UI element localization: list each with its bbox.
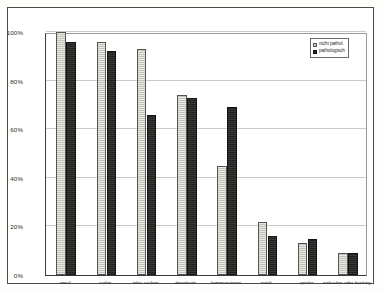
legend-item-nicht-pathol: nicht pathol.	[313, 41, 345, 48]
bar-group	[288, 34, 328, 275]
bar	[187, 98, 197, 275]
bar	[97, 42, 107, 275]
legend: nicht pathol. pathologisch	[310, 38, 349, 58]
plot-area	[45, 33, 367, 276]
bar	[56, 32, 66, 275]
bar	[227, 107, 237, 275]
bar	[258, 222, 268, 275]
legend-label: nicht pathol.	[319, 42, 344, 47]
bar-group	[86, 34, 126, 275]
bar-group	[207, 34, 247, 275]
bar	[308, 239, 318, 275]
y-axis-tick-label: 20%	[0, 224, 23, 230]
bar-group	[328, 34, 368, 275]
bar-group	[127, 34, 167, 275]
figure-border: 0%20%40%60%80%100% emailsurfeninfos such…	[7, 7, 374, 284]
bar-group	[247, 34, 287, 275]
bar-series-container	[46, 34, 366, 275]
bar	[66, 42, 76, 275]
y-axis-tick-label: 40%	[0, 176, 23, 182]
bar	[298, 243, 308, 275]
legend-item-pathologisch: pathologisch	[313, 48, 345, 55]
x-axis-category-label: einkaufen oder banking	[323, 280, 371, 287]
bar	[107, 51, 117, 275]
bar	[348, 253, 358, 275]
legend-label: pathologisch	[319, 49, 345, 54]
legend-swatch-dark-icon	[313, 50, 317, 54]
bar-group	[46, 34, 86, 275]
y-axis-tick-label: 60%	[0, 127, 23, 133]
bar	[147, 115, 157, 275]
gridline	[46, 31, 366, 32]
bar	[177, 95, 187, 275]
y-axis-tick-label: 80%	[0, 79, 23, 85]
bar	[338, 253, 348, 275]
legend-swatch-light-icon	[313, 43, 317, 47]
y-axis-tick-label: 100%	[0, 30, 23, 36]
bar-group	[167, 34, 207, 275]
bar	[268, 236, 278, 275]
chart-figure: 0%20%40%60%80%100% emailsurfeninfos such…	[0, 0, 384, 293]
bar	[137, 49, 147, 275]
y-axis-tick-label: 0%	[0, 273, 23, 279]
bar	[217, 166, 227, 275]
